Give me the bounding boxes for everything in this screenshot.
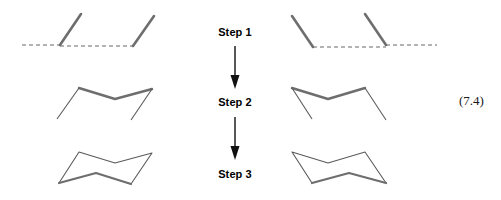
chain-thick-path bbox=[292, 88, 365, 99]
step1-left-svg bbox=[0, 0, 200, 60]
chain-tail-line bbox=[57, 88, 79, 119]
step1-right-svg bbox=[270, 0, 470, 60]
arrow-head bbox=[231, 146, 240, 160]
step2-left-svg bbox=[0, 65, 200, 130]
chain-tail-line bbox=[365, 88, 386, 120]
chair-thick-path bbox=[312, 173, 386, 183]
diagram-step2-left bbox=[0, 65, 200, 130]
bond-line bbox=[292, 16, 313, 47]
arrow-head bbox=[231, 75, 240, 89]
arrow-step2-to-step3 bbox=[200, 115, 270, 165]
diagram-step3-right bbox=[270, 130, 470, 200]
bond-line bbox=[133, 16, 154, 46]
diagram-step2-right bbox=[270, 65, 470, 130]
step1-right-dashed-baseline bbox=[313, 45, 437, 47]
bond-line bbox=[365, 14, 386, 45]
down-arrow-icon bbox=[200, 44, 270, 94]
step3-left-svg bbox=[0, 130, 200, 200]
figure-canvas: Step 1 Step 2 Step 3 (7.4) bbox=[0, 0, 501, 200]
step3-right-svg bbox=[270, 130, 470, 200]
down-arrow-icon bbox=[200, 115, 270, 165]
diagram-step3-left bbox=[0, 130, 200, 200]
step1-right-solid-strokes bbox=[292, 14, 386, 47]
equation-number: (7.4) bbox=[459, 93, 484, 109]
step1-left-dashed-baseline bbox=[22, 45, 133, 46]
step2-right-svg bbox=[270, 65, 470, 130]
diagram-step1-left bbox=[0, 0, 200, 60]
step-2-label: Step 2 bbox=[200, 96, 270, 108]
diagram-step1-right bbox=[270, 0, 470, 60]
chair-thick-path bbox=[59, 173, 131, 184]
step-3-label: Step 3 bbox=[200, 168, 270, 180]
step-1-label: Step 1 bbox=[200, 26, 270, 38]
step1-left-solid-strokes bbox=[60, 14, 154, 46]
arrow-step1-to-step2 bbox=[200, 44, 270, 94]
chain-thick-path bbox=[79, 88, 152, 99]
bond-line bbox=[60, 14, 81, 45]
